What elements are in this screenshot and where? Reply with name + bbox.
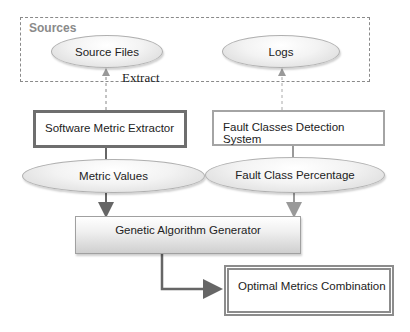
node-fault-class-percentage-label: Fault Class Percentage bbox=[235, 169, 355, 181]
node-software-metric-extractor[interactable]: Software Metric Extractor bbox=[33, 110, 187, 148]
node-optimal-metrics-combination-label: Optimal Metrics Combination bbox=[238, 280, 386, 292]
sources-group-label: Sources bbox=[29, 21, 76, 35]
node-genetic-algorithm-generator[interactable]: Genetic Algorithm Generator bbox=[75, 216, 301, 254]
node-source-files-label: Source Files bbox=[75, 46, 139, 58]
node-fault-class-percentage[interactable]: Fault Class Percentage bbox=[205, 157, 385, 193]
node-fault-classes-detection-system[interactable]: Fault Classes Detection System bbox=[212, 110, 385, 146]
node-logs-label: Logs bbox=[269, 46, 294, 58]
node-metric-values[interactable]: Metric Values bbox=[22, 159, 205, 193]
edge-label-extract: Extract bbox=[122, 70, 160, 86]
node-metric-values-label: Metric Values bbox=[79, 170, 148, 182]
node-optimal-metrics-combination[interactable]: Optimal Metrics Combination bbox=[224, 265, 394, 316]
edge-gag-to-optimal bbox=[162, 254, 213, 289]
node-source-files[interactable]: Source Files bbox=[51, 35, 163, 68]
node-logs[interactable]: Logs bbox=[222, 35, 340, 68]
node-fault-classes-detection-system-label: Fault Classes Detection System bbox=[223, 121, 344, 145]
node-software-metric-extractor-label: Software Metric Extractor bbox=[45, 122, 174, 134]
node-genetic-algorithm-generator-label: Genetic Algorithm Generator bbox=[115, 224, 261, 236]
